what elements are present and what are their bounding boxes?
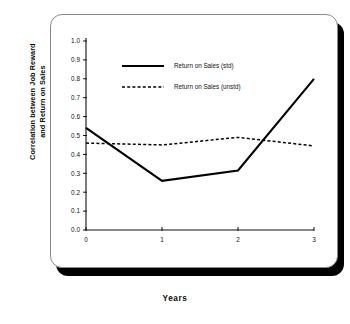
y-axis-tick-label: 0.1 (71, 207, 80, 214)
chart-figure: Correlation between Job Reward and Retur… (0, 0, 350, 324)
y-axis-tick-label: 0.5 (71, 132, 80, 139)
series-line-1 (86, 79, 314, 181)
y-axis-label-line-2: and Return on Sales (38, 22, 48, 182)
plot-area: 0.00.10.20.30.40.50.60.70.80.91.00123Ret… (50, 14, 338, 268)
y-axis-tick-label: 0.2 (71, 189, 80, 196)
y-axis-tick-label: 0.0 (71, 226, 80, 233)
x-axis-tick-label: 0 (84, 236, 88, 243)
y-axis-tick-label: 0.9 (71, 56, 80, 63)
y-axis-tick-label: 0.4 (71, 151, 80, 158)
y-axis-label-line-1: Correlation between Job Reward (28, 22, 38, 182)
series-line-2 (86, 137, 314, 146)
y-axis-tick-label: 0.6 (71, 113, 80, 120)
x-axis-tick-label: 1 (160, 236, 164, 243)
x-axis-tick-label: 3 (312, 236, 316, 243)
y-axis-tick-label: 0.8 (71, 75, 80, 82)
legend-label-1: Return on Sales (std) (174, 62, 234, 70)
y-axis-tick-label: 1.0 (71, 37, 80, 44)
legend-label-2: Return on Sales (unstd) (174, 83, 241, 91)
y-axis-label: Correlation between Job Reward and Retur… (28, 22, 47, 182)
x-axis-tick-label: 2 (236, 236, 240, 243)
y-axis-tick-label: 0.7 (71, 94, 80, 101)
x-axis-label: Years (0, 294, 350, 303)
y-axis-tick-label: 0.3 (71, 170, 80, 177)
